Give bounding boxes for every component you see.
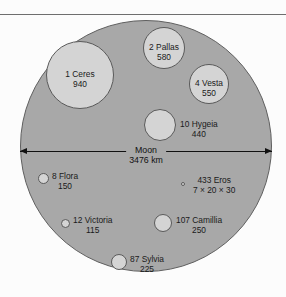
figure-canvas: 1 Ceres 940 2 Pallas 580 4 Vesta 550 10 … — [0, 0, 286, 297]
body-circle-433-eros — [181, 182, 185, 186]
body-label-4-vesta: 4 Vesta 550 — [195, 79, 223, 98]
body-circle-12-victoria — [61, 219, 70, 228]
body-label-107-camillia: 107 Camillia 250 — [176, 216, 222, 235]
body-circle-87-sylvia — [111, 254, 127, 270]
body-label-12-victoria: 12 Victoria 115 — [73, 216, 112, 235]
body-value-1-ceres: 940 — [65, 80, 94, 90]
body-value-107-camillia: 250 — [176, 226, 222, 236]
body-label-1-ceres: 1 Ceres 940 — [65, 70, 94, 89]
body-label-10-hygeia: 10 Hygeia 440 — [180, 120, 218, 139]
body-value-433-eros: 7 × 20 × 30 — [193, 186, 235, 196]
body-value-87-sylvia: 225 — [130, 265, 164, 275]
moon-diameter-value: 3476 km — [129, 155, 163, 165]
moon-diameter-arrowhead-right — [265, 148, 272, 154]
body-value-2-pallas: 580 — [149, 53, 179, 63]
body-label-87-sylvia: 87 Sylvia 225 — [130, 255, 164, 274]
size-comparison-plot: 1 Ceres 940 2 Pallas 580 4 Vesta 550 10 … — [0, 0, 286, 297]
moon-diameter-arrowhead-left — [20, 148, 27, 154]
moon-diameter-label: Moon 3476 km — [126, 145, 166, 165]
body-label-2-pallas: 2 Pallas 580 — [149, 43, 179, 62]
body-label-8-flora: 8 Flora 150 — [52, 172, 78, 191]
moon-name: Moon — [129, 145, 163, 155]
body-value-4-vesta: 550 — [195, 89, 223, 99]
body-value-10-hygeia: 440 — [180, 130, 218, 140]
body-circle-10-hygeia — [144, 109, 176, 141]
body-label-433-eros: 433 Eros 7 × 20 × 30 — [193, 176, 235, 195]
body-value-12-victoria: 115 — [73, 226, 112, 236]
body-value-8-flora: 150 — [52, 182, 78, 192]
body-circle-8-flora — [38, 173, 49, 184]
body-circle-107-camillia — [154, 214, 172, 232]
